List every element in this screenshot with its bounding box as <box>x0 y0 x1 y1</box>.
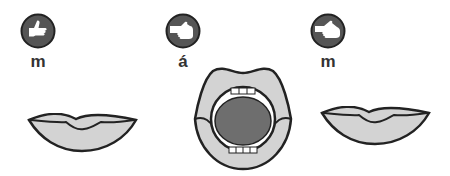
open-mouth <box>191 67 295 173</box>
phoneme-label: m <box>18 52 58 72</box>
pointing-hand-icon <box>165 13 201 49</box>
closed-lips <box>319 106 431 148</box>
thumbs-up-hand-icon <box>20 13 56 49</box>
flat-hand-icon <box>310 13 346 49</box>
step-1: m <box>0 0 150 176</box>
step-2: á <box>150 0 300 176</box>
closed-lips <box>26 113 138 155</box>
step-3: m <box>300 0 450 176</box>
phoneme-label: m <box>308 52 348 72</box>
